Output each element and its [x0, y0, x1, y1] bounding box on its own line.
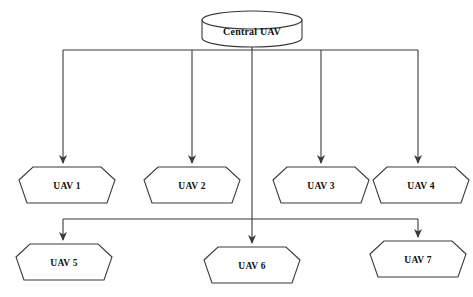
node-central-uav[interactable] — [202, 11, 302, 47]
node-uav-4[interactable] — [373, 167, 469, 203]
node-uav-7[interactable] — [370, 241, 466, 277]
connector-group — [63, 44, 418, 243]
node-uav-5[interactable] — [16, 244, 112, 280]
cylinder-top — [202, 11, 302, 29]
diagram-canvas: Central UAV UAV 1 UAV 2 UAV 3 UAV 4 UAV … — [0, 0, 473, 297]
node-uav-1[interactable] — [19, 167, 115, 203]
node-group — [16, 11, 469, 283]
uav-topology-diagram — [0, 0, 473, 297]
node-uav-2[interactable] — [144, 167, 240, 203]
node-uav-6[interactable] — [204, 247, 300, 283]
node-uav-3[interactable] — [273, 167, 369, 203]
